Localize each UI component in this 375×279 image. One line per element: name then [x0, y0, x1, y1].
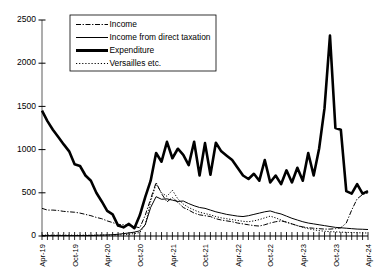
- x-axis-tick-label: Apr-24: [364, 244, 373, 267]
- x-axis-tick-label: Oct-21: [201, 244, 210, 267]
- legend-label-1: Income: [110, 19, 138, 29]
- legend-label-2: Income from direct taxation: [110, 32, 211, 42]
- series-line-versailles: [42, 184, 368, 235]
- line-chart: 05001000150020002500Apr-19Oct-19Apr-20Oc…: [0, 0, 375, 279]
- y-axis-tick-label: 0: [31, 230, 36, 240]
- y-axis-tick-label: 2000: [17, 57, 36, 67]
- y-axis-tick-label: 2500: [17, 14, 36, 24]
- chart-container: 05001000150020002500Apr-19Oct-19Apr-20Oc…: [0, 0, 375, 279]
- x-axis-tick-label: Oct-20: [136, 244, 145, 267]
- x-axis-tick-label: Oct-22: [266, 244, 275, 267]
- x-axis-tick-label: Oct-23: [332, 244, 341, 267]
- y-axis-tick-label: 1500: [17, 101, 36, 111]
- x-axis-tick-label: Apr-20: [103, 244, 112, 267]
- x-axis-tick-label: Apr-23: [299, 244, 308, 267]
- series-line-income: [42, 182, 368, 229]
- legend-label-3: Expenditure: [110, 45, 155, 55]
- x-axis-tick-label: Apr-21: [169, 244, 178, 267]
- y-axis-tick-label: 500: [22, 187, 36, 197]
- x-axis-tick-label: Oct-19: [71, 244, 80, 267]
- x-axis-tick-label: Apr-19: [38, 244, 47, 267]
- x-axis-tick-label: Apr-22: [234, 244, 243, 267]
- legend-label-4: Versailles etc.: [110, 58, 162, 68]
- y-axis-tick-label: 1000: [17, 144, 36, 154]
